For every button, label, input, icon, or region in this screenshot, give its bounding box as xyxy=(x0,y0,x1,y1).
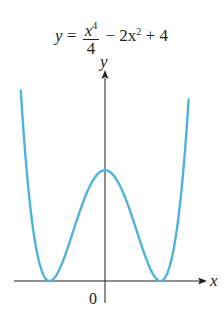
y-axis-arrow-icon xyxy=(102,70,109,79)
plot-area: x y 0 xyxy=(0,0,223,320)
origin-label: 0 xyxy=(89,290,97,307)
x-axis-label: x xyxy=(209,271,218,290)
y-axis-label: y xyxy=(98,52,108,71)
